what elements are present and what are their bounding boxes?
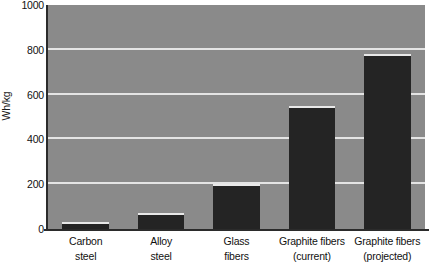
- x-axis-category-label-line: Alloy: [123, 234, 198, 249]
- x-axis-category-label: Graphite fibers(current): [274, 234, 349, 264]
- y-axis-tick-labels: 10008006004002000: [0, 0, 44, 273]
- y-axis-tick-label: 800: [2, 45, 44, 56]
- bar-chart: Wh/kg 10008006004002000 CarbonsteelAlloy…: [0, 0, 433, 273]
- bar: [138, 213, 185, 229]
- y-axis-tick-label: 0: [2, 224, 44, 235]
- x-axis-category-label-line: Glass: [199, 234, 274, 249]
- y-axis-line: [46, 5, 48, 231]
- x-axis-category-label: Carbonsteel: [48, 234, 123, 264]
- x-axis-category-label-line: Graphite fibers: [350, 234, 425, 249]
- y-axis-tick-label: 400: [2, 134, 44, 145]
- x-axis-category-label: Glassfibers: [199, 234, 274, 264]
- bar: [289, 106, 336, 229]
- bar: [213, 184, 260, 229]
- x-axis-category-label-line: fibers: [199, 249, 274, 264]
- x-axis-category-label-line: steel: [123, 249, 198, 264]
- x-axis-category-label-line: Graphite fibers: [274, 234, 349, 249]
- x-axis-category-label: Alloysteel: [123, 234, 198, 264]
- bar: [62, 222, 109, 229]
- bar: [364, 54, 411, 229]
- x-axis-category-labels: CarbonsteelAlloysteelGlassfibersGraphite…: [48, 234, 425, 273]
- x-axis-category-label-line: (current): [274, 249, 349, 264]
- x-axis-category-label-line: steel: [48, 249, 123, 264]
- y-axis-tick-label: 600: [2, 90, 44, 101]
- gridline: [48, 48, 425, 50]
- y-axis-tick-label: 200: [2, 179, 44, 190]
- x-axis-category-label-line: Carbon: [48, 234, 123, 249]
- x-axis-line: [44, 229, 429, 231]
- plot-area: [48, 5, 425, 229]
- y-axis-tick-label: 1000: [2, 0, 44, 11]
- x-axis-category-label-line: (projected): [350, 249, 425, 264]
- x-axis-category-label: Graphite fibers(projected): [350, 234, 425, 264]
